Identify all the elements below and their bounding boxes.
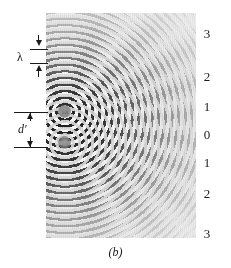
arrow-up-icon <box>36 65 42 71</box>
wavelength-annotation: λ <box>17 33 51 78</box>
figure-caption: (b) <box>0 245 231 259</box>
arrow-up-icon <box>27 113 33 119</box>
order-label: 1 <box>200 156 214 169</box>
order-label: 1 <box>200 100 214 113</box>
wave-source-upper <box>58 105 71 118</box>
source-separation-annotation: d′ <box>14 108 52 154</box>
source-separation-label: d′ <box>17 123 28 135</box>
wavelength-label: λ <box>17 51 23 63</box>
order-label: 2 <box>200 187 214 200</box>
wavelength-tick-upper <box>30 49 48 50</box>
interference-figure: λ d′ 3210123 (b) <box>0 0 231 268</box>
ripple-tank-interference-photo <box>46 13 196 238</box>
order-label: 2 <box>200 70 214 83</box>
order-label: 3 <box>200 227 214 240</box>
arrow-down-icon <box>36 40 42 46</box>
photo-grain-overlay <box>46 13 196 238</box>
order-label: 3 <box>200 27 214 40</box>
order-label: 0 <box>200 128 214 141</box>
wavelength-stem-lower <box>38 71 39 77</box>
wave-source-lower <box>58 136 71 149</box>
wavelength-tick-lower <box>30 63 48 64</box>
maxima-order-labels: 3210123 <box>200 13 226 238</box>
separation-rule-bottom <box>14 147 48 148</box>
